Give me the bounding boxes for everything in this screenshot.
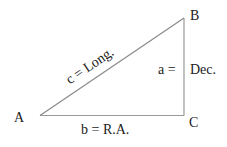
side-a-label-right: Dec. [190,62,216,77]
side-b-label: b = R.A. [81,122,129,137]
vertex-c-label: C [189,115,198,130]
vertex-b-label: B [190,8,199,23]
triangle-diagram: A B C a = Dec. b = R.A. c = Long. [0,0,227,147]
side-c-label: c = Long. [63,44,116,87]
side-a-label-left: a = [158,62,176,77]
vertex-a-label: A [14,110,25,125]
